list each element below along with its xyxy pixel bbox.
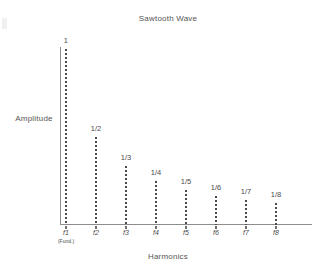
y-axis-line — [60, 47, 61, 224]
harmonic-stem — [95, 137, 97, 225]
data-value-label: 1/8 — [271, 190, 282, 199]
data-value-label: 1/6 — [211, 183, 222, 192]
x-axis-tick-label: f8 — [273, 229, 279, 236]
y-axis-label: Amplitude — [8, 114, 60, 123]
harmonic-stem — [185, 190, 187, 225]
data-value-label: 1/4 — [151, 168, 162, 177]
harmonic-stem — [125, 166, 127, 225]
data-value-label: 1/5 — [181, 177, 192, 186]
x-axis-tick-label: f7 — [243, 229, 249, 236]
x-axis-tick-label: f1 — [63, 229, 69, 236]
data-value-label: 1/3 — [121, 153, 132, 162]
harmonic-stem — [275, 203, 277, 225]
x-axis-tick-label: f4 — [153, 229, 159, 236]
harmonic-stem — [65, 49, 67, 225]
harmonic-stem — [245, 200, 247, 225]
harmonic-stem — [215, 196, 217, 225]
data-value-label: 1/7 — [241, 187, 252, 196]
x-axis-tick-label: f3 — [123, 229, 129, 236]
x-axis-tick-label: f6 — [213, 229, 219, 236]
harmonic-stem — [155, 181, 157, 225]
data-value-label: 1 — [64, 36, 68, 45]
x-axis-tick-label: f5 — [183, 229, 189, 236]
plot-area: 1f1(Fund.)1/2f21/3f31/4f41/5f51/6f61/7f7… — [60, 44, 312, 226]
x-axis-label: Harmonics — [0, 252, 336, 261]
chart-title: Sawtooth Wave — [0, 14, 336, 23]
sawtooth-harmonics-chart: Sawtooth Wave Amplitude 1f1(Fund.)1/2f21… — [0, 0, 336, 272]
x-axis-tick-sublabel: (Fund.) — [58, 238, 74, 244]
data-value-label: 1/2 — [91, 124, 102, 133]
x-axis-tick-label: f2 — [93, 229, 99, 236]
